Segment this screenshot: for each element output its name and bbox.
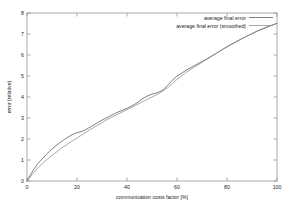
y-tick-label: 4 xyxy=(21,94,24,100)
y-tick-label: 1 xyxy=(21,157,24,163)
x-axis-title: communication costs factor [%] xyxy=(116,194,188,200)
y-tick-label: 7 xyxy=(21,31,24,37)
y-tick-label: 6 xyxy=(21,52,24,58)
y-axis-title: error (relative) xyxy=(6,80,12,113)
legend-label-1: average final error (smoothed) xyxy=(176,23,246,29)
legend-label-0: average final error xyxy=(204,15,246,21)
x-tick-label: 60 xyxy=(174,184,180,190)
x-tick-label: 80 xyxy=(224,184,230,190)
x-tick-label: 20 xyxy=(74,184,80,190)
y-tick-label: 0 xyxy=(21,178,24,184)
y-tick-label: 2 xyxy=(21,136,24,142)
line-chart: 012345678 020406080100 communication cos… xyxy=(0,0,290,211)
x-tick-label: 100 xyxy=(273,184,282,190)
x-tick-label: 40 xyxy=(124,184,130,190)
chart-background xyxy=(0,0,290,211)
y-tick-label: 3 xyxy=(21,115,24,121)
chart-container: 012345678 020406080100 communication cos… xyxy=(0,0,290,211)
y-tick-label: 5 xyxy=(21,73,24,79)
y-tick-label: 8 xyxy=(21,10,24,16)
x-tick-label: 0 xyxy=(26,184,29,190)
